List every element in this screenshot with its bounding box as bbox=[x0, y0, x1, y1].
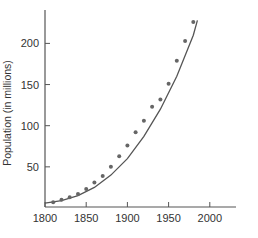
data-point bbox=[68, 195, 72, 199]
data-point bbox=[191, 20, 195, 24]
y-tick-label: 100 bbox=[21, 120, 39, 132]
data-point bbox=[60, 198, 64, 202]
data-point bbox=[76, 192, 80, 196]
axes bbox=[45, 10, 236, 207]
data-point bbox=[134, 130, 138, 134]
data-point bbox=[117, 154, 121, 158]
population-chart: 50100150200 18001850190019502000 Populat… bbox=[0, 0, 258, 238]
data-point bbox=[51, 200, 55, 204]
data-point bbox=[183, 39, 187, 43]
data-points bbox=[51, 20, 195, 204]
x-ticks: 18001850190019502000 bbox=[33, 202, 222, 224]
y-axis-title: Population (in millions) bbox=[1, 60, 13, 166]
x-tick-label: 1800 bbox=[33, 212, 57, 224]
data-point bbox=[150, 105, 154, 109]
x-tick-label: 2000 bbox=[198, 212, 222, 224]
data-point bbox=[158, 97, 162, 101]
data-point bbox=[92, 181, 96, 185]
data-point bbox=[167, 82, 171, 86]
x-tick-label: 1950 bbox=[156, 212, 180, 224]
x-tick-label: 1850 bbox=[74, 212, 98, 224]
data-point bbox=[109, 165, 113, 169]
y-tick-label: 50 bbox=[27, 161, 39, 173]
x-tick-label: 1900 bbox=[115, 212, 139, 224]
data-point bbox=[125, 144, 129, 148]
data-point bbox=[175, 59, 179, 63]
y-tick-label: 150 bbox=[21, 79, 39, 91]
data-point bbox=[101, 174, 105, 178]
y-tick-label: 200 bbox=[21, 37, 39, 49]
data-point bbox=[84, 187, 88, 191]
data-point bbox=[142, 119, 146, 123]
fitted-curve bbox=[45, 20, 197, 203]
